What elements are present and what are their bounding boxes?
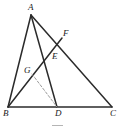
vertex-label-B: B [3, 109, 9, 118]
vertex-label-F: F [63, 29, 69, 38]
vertex-label-C: C [110, 109, 116, 118]
caption-rule [52, 125, 63, 126]
vertex-label-D: D [55, 109, 62, 118]
vertex-label-G: G [24, 66, 31, 75]
segment-GD [32, 74, 57, 107]
vertex-label-A: A [28, 3, 34, 12]
geometry-figure: A B C D E F G [0, 0, 120, 132]
vertex-label-E: E [52, 52, 58, 61]
